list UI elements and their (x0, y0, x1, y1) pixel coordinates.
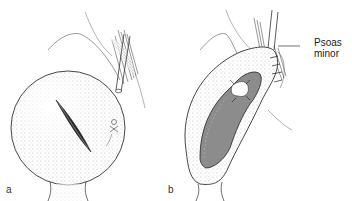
surgical-illustration: a b Psoas minor (0, 0, 352, 201)
panel-b (185, 10, 300, 201)
callout-psoas-minor: Psoas minor (314, 37, 342, 59)
panel-label-b: b (168, 184, 174, 195)
callout-line-2: minor (314, 48, 342, 59)
callout-line-1: Psoas (314, 37, 342, 48)
panel-a (11, 12, 145, 201)
panel-label-a: a (6, 184, 12, 195)
